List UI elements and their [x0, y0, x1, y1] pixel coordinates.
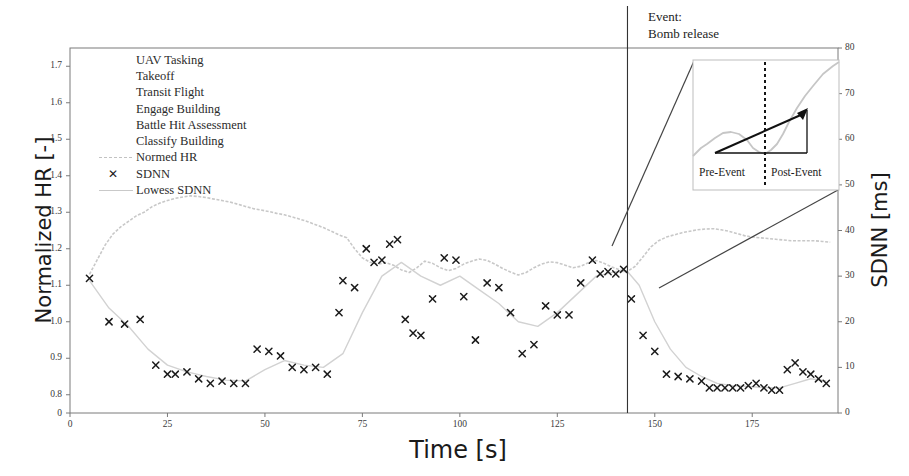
y-tick-label-left: 1.0	[36, 316, 62, 326]
sdnn-marker	[453, 257, 459, 263]
sdnn-marker	[496, 284, 502, 290]
sdnn-marker	[745, 383, 751, 389]
sdnn-marker	[722, 385, 728, 391]
sdnn-marker	[387, 241, 393, 247]
dashed-line-icon	[99, 157, 133, 158]
legend-item-label: Normed HR	[134, 150, 197, 165]
sdnn-marker	[484, 280, 490, 286]
y-tick-label-right: 30	[845, 270, 871, 280]
legend-blank-key	[98, 86, 134, 100]
x-tick-label: 125	[542, 419, 572, 429]
sdnn-marker	[418, 332, 424, 338]
y-tick-label-right: 50	[845, 179, 871, 189]
sdnn-marker	[578, 280, 584, 286]
y-tick-label-right: 80	[845, 42, 871, 52]
sdnn-marker	[277, 353, 283, 359]
sdnn-marker	[301, 367, 307, 373]
y-tick-label-left: 1.6	[36, 97, 62, 107]
sdnn-marker	[566, 312, 572, 318]
sdnn-marker	[429, 296, 435, 302]
sdnn-marker	[207, 380, 213, 386]
x-tick-label: 150	[640, 419, 670, 429]
y-tick-label-left: 0.8	[36, 389, 62, 399]
sdnn-marker	[597, 271, 603, 277]
sdnn-marker	[472, 337, 478, 343]
sdnn-marker	[808, 371, 814, 377]
sdnn-marker	[379, 257, 385, 263]
x-tick-label: 175	[737, 419, 767, 429]
sdnn-marker	[137, 316, 143, 322]
legend-marker-icon: ✕	[98, 167, 134, 181]
legend: UAV TaskingTakeoffTransit FlightEngage B…	[98, 52, 246, 199]
legend-item[interactable]: Engage Building	[98, 101, 246, 117]
sdnn-marker	[706, 385, 712, 391]
y-tick-label-right: 40	[845, 225, 871, 235]
inset-label-layer: Pre-Event Post-Event	[693, 60, 839, 190]
legend-item-label: Transit Flight	[134, 85, 204, 100]
legend-item[interactable]: Normed HR	[98, 150, 246, 166]
legend-item[interactable]: ✕SDNN	[98, 166, 246, 182]
sdnn-marker	[394, 237, 400, 243]
sdnn-marker	[402, 316, 408, 322]
legend-item-label: UAV Tasking	[134, 53, 204, 68]
y-tick-label-right: 20	[845, 316, 871, 326]
sdnn-marker	[164, 371, 170, 377]
sdnn-marker	[714, 385, 720, 391]
y-tick-label-right: 60	[845, 133, 871, 143]
normed-hr-line	[89, 196, 830, 275]
y-tick-label-left: 0.9	[36, 352, 62, 362]
sdnn-marker	[106, 319, 112, 325]
legend-item[interactable]: Battle Hit Assessment	[98, 117, 246, 133]
legend-item[interactable]: Transit Flight	[98, 85, 246, 101]
y-tick-label-left: 1.1	[36, 279, 62, 289]
legend-blank-key	[98, 53, 134, 67]
y-tick-label-left: 1.7	[36, 60, 62, 70]
sdnn-marker	[640, 332, 646, 338]
sdnn-marker	[254, 346, 260, 352]
sdnn-marker	[266, 348, 272, 354]
sdnn-marker	[815, 376, 821, 382]
legend-blank-key	[98, 135, 134, 149]
legend-blank-key	[98, 102, 134, 116]
sdnn-marker	[543, 303, 549, 309]
sdnn-scatter-points	[86, 237, 829, 394]
x-tick-label: 50	[250, 419, 280, 429]
x-tick-label: 0	[55, 419, 85, 429]
x-tick-label: 25	[152, 419, 182, 429]
solid-line-icon	[99, 190, 133, 191]
sdnn-marker	[461, 294, 467, 300]
legend-item[interactable]: Lowess SDNN	[98, 182, 246, 198]
sdnn-marker	[698, 378, 704, 384]
sdnn-marker	[652, 348, 658, 354]
sdnn-marker	[86, 275, 92, 281]
y-tick-label-right: 70	[845, 88, 871, 98]
legend-item[interactable]: Classify Building	[98, 133, 246, 149]
sdnn-marker	[153, 362, 159, 368]
y-tick-label-right: 0	[845, 407, 871, 417]
sdnn-marker	[823, 380, 829, 386]
legend-blank-key	[98, 118, 134, 132]
x-tick-label: 75	[347, 419, 377, 429]
x-tick-label: 100	[445, 419, 475, 429]
sdnn-marker	[324, 371, 330, 377]
sdnn-marker	[340, 278, 346, 284]
lowess-sdnn-line	[89, 262, 826, 387]
sdnn-marker	[336, 310, 342, 316]
legend-item[interactable]: Takeoff	[98, 68, 246, 84]
sdnn-marker	[410, 330, 416, 336]
legend-item-label: Battle Hit Assessment	[134, 118, 246, 133]
legend-line-icon	[98, 184, 134, 198]
legend-item[interactable]: UAV Tasking	[98, 52, 246, 68]
legend-item-label: Classify Building	[134, 134, 224, 149]
sdnn-marker	[784, 367, 790, 373]
sdnn-marker	[363, 246, 369, 252]
legend-item-label: Takeoff	[134, 69, 174, 84]
sdnn-marker	[792, 360, 798, 366]
sdnn-marker	[289, 364, 295, 370]
legend-blank-key	[98, 69, 134, 83]
y-axis-origin-label: 0	[36, 408, 62, 418]
sdnn-marker	[519, 351, 525, 357]
y-tick-label-left: 1.2	[36, 243, 62, 253]
legend-line-icon	[98, 151, 134, 165]
inset-post-event-label: Post-Event	[771, 166, 821, 178]
